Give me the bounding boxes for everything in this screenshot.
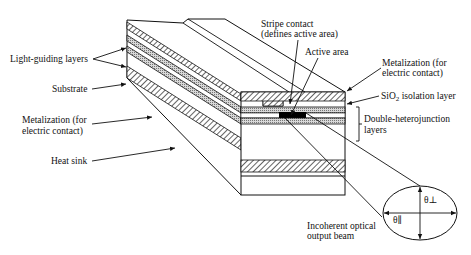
stripe-contact-label-2: (defines active area) [261,29,338,40]
dh-bracket [356,107,359,141]
stripe-contact-label-1: Stripe contact [261,19,314,29]
active-area-label: Active area [305,47,349,57]
right-labels: Metalization (for electric contact) SiO2… [347,58,457,141]
light-guiding-label: Light-guiding layers [10,54,88,64]
bottom-metal-front [241,160,345,172]
laser-diode-diagram: θ⊥ θ∥ Light-guiding layers Substrate Met… [0,0,471,255]
metal-bottom-label-1: Metalization (for [22,115,87,126]
theta-par-label: θ∥ [393,215,402,225]
theta-perp-label: θ⊥ [424,195,438,205]
guide-layer-2-front [241,118,345,124]
dh-label-2: layers [364,125,387,135]
dh-label-1: Double-heterojunction [364,114,450,124]
beam-label-1: Incoherent optical [307,221,376,231]
metal-bottom-label-2: electric contact) [22,126,83,137]
beam-labels: Incoherent optical output beam [307,221,376,241]
substrate-label: Substrate [52,84,87,94]
guide-layer-1-side [127,35,241,113]
heat-sink-label: Heat sink [51,156,87,166]
metal-top-label-2: electric contact) [382,68,443,79]
stripe-contact [263,101,283,106]
beam-label-2: output beam [307,231,355,241]
front-face [241,92,345,195]
sio2-label: SiO2 isolation layer [381,91,457,103]
